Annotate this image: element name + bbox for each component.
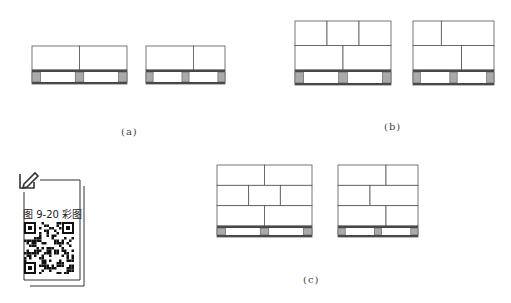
qr-module [62,240,65,243]
qr-module [62,262,65,265]
pallet-block [374,228,381,235]
qr-module [29,257,32,260]
qr-module [37,250,40,253]
qr-module [39,272,42,274]
pallet-block [413,72,420,83]
qr-module [44,225,47,228]
qr-module [69,265,72,268]
qr-module [39,232,42,235]
qr-module [62,265,65,268]
qr-module [52,265,55,268]
qr-module [47,265,50,268]
qr-module [39,227,42,230]
pallet-block [303,228,312,235]
qr-module [69,245,72,248]
qr-card[interactable]: 图 9-20 彩图 [18,170,84,290]
qr-module [27,250,30,253]
qr-module [67,255,70,258]
qr-module [57,272,60,274]
cargo-box [462,46,494,71]
qr-module [47,250,50,253]
qr-module [72,257,75,260]
qr-module [27,252,30,255]
qr-module [69,270,72,273]
qr-module [34,240,37,243]
qr-module [42,260,45,263]
qr-module [29,240,32,243]
qr-module [39,240,42,243]
pallet-block [118,72,127,82]
qr-code[interactable] [24,222,74,274]
qr-module [67,272,70,274]
qr-module [59,262,62,265]
pallet-block [338,228,345,235]
cargo-box [217,165,265,185]
qr-module [54,240,57,243]
qr-module [72,260,75,263]
qr-module [64,272,67,274]
qr-module [42,242,45,245]
qr-module [47,252,50,255]
cargo-box [193,46,225,70]
qr-module [54,230,57,233]
qr-module [27,240,30,243]
qr-module [37,240,40,243]
qr-module [52,227,55,230]
cargo-box [265,165,313,185]
cargo-box [80,46,128,70]
qr-module [29,252,32,255]
qr-finder-core [66,226,70,230]
qr-module [49,260,52,263]
pallet-block [450,72,457,83]
qr-module [54,235,57,238]
qr-module [47,247,50,250]
qr-module [49,227,52,230]
qr-module [47,232,50,235]
qr-module [67,257,70,260]
qr-module [32,245,35,248]
qr-module [52,237,55,240]
qr-module [37,252,40,255]
qr-module [47,267,50,270]
qr-module [54,267,57,270]
qr-module [49,247,52,250]
qr-module [72,270,75,273]
qr-module [34,237,37,240]
qr-module [72,255,75,258]
qr-module [69,240,72,243]
qr-module [64,250,67,253]
qr-module [62,255,65,258]
qr-module [37,247,40,250]
qr-module [62,247,65,250]
qr-module [42,257,45,260]
qr-module [67,252,70,255]
qr-module [39,237,42,240]
qr-module [32,240,35,243]
qr-module [52,247,55,250]
qr-module [59,222,62,225]
qr-module [44,262,47,265]
qr-module [42,270,45,273]
cargo-box [217,206,265,226]
qr-module [42,265,45,268]
qr-module [39,250,42,253]
qr-module [42,222,45,225]
pallet-block [411,228,418,235]
qr-module [37,237,40,240]
cargo-box [265,206,313,226]
qr-module [67,267,70,270]
qr-module [59,265,62,268]
cargo-box [327,21,359,46]
qr-module [57,250,60,253]
qr-module [49,252,52,255]
qr-module [57,225,60,228]
qr-module [67,270,70,273]
pallet-block [260,228,269,235]
pallet-block [32,72,41,82]
cargo-box [359,21,391,46]
cargo-box [386,206,418,226]
qr-module [62,250,65,253]
pallet-block [217,228,226,235]
qr-module [42,255,45,258]
cargo-box [413,46,462,71]
